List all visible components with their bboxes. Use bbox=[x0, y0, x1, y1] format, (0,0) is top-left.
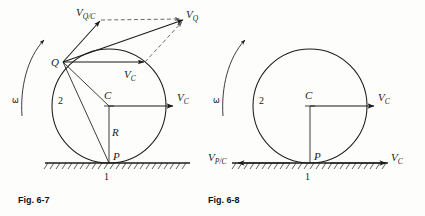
ground-hatching-fig1 bbox=[44, 163, 186, 169]
label-body-2-fig2: 2 bbox=[259, 95, 264, 106]
omega-arc-fig1 bbox=[22, 40, 44, 116]
omega-arc-fig2 bbox=[223, 40, 245, 116]
label-point-c-fig1: C bbox=[104, 89, 112, 101]
dashed-parallel-side-fig1 bbox=[145, 22, 182, 62]
label-point-p-fig1: P bbox=[112, 150, 120, 162]
label-v-q-fig1: VQ bbox=[186, 8, 199, 23]
label-ground-1-fig1: 1 bbox=[104, 171, 109, 182]
label-body-2-fig1: 2 bbox=[58, 95, 63, 106]
line-QC-fig1 bbox=[63, 62, 109, 106]
label-v-c-at-center-fig2: VC bbox=[378, 91, 391, 106]
label-omega-fig1: ω bbox=[12, 96, 19, 105]
label-ground-1-fig2: 1 bbox=[305, 171, 310, 182]
caption-fig-6-8: Fig. 6-8 bbox=[208, 195, 240, 205]
dashed-parallel-top-fig1 bbox=[101, 19, 180, 20]
figure-page: VQ/C VQ VC VC Q C P R 2 1 ω Fig. 6-7 bbox=[0, 0, 425, 216]
label-v-c-at-center-fig1: VC bbox=[177, 91, 190, 106]
figure-6-7: VQ/C VQ VC VC Q C P R 2 1 ω Fig. 6-7 bbox=[12, 6, 199, 205]
diagram-canvas: VQ/C VQ VC VC Q C P R 2 1 ω Fig. 6-7 bbox=[0, 0, 425, 216]
label-v-c-on-ground-fig2: VC bbox=[391, 151, 404, 166]
figure-6-8: VC VP/C VC C P 2 1 ω Fig. 6-8 bbox=[208, 40, 404, 205]
label-point-p-fig2: P bbox=[313, 150, 321, 162]
label-v-p-over-c-fig2: VP/C bbox=[208, 151, 227, 166]
label-radius-r-fig1: R bbox=[111, 126, 119, 138]
ground-hatching-fig2 bbox=[232, 163, 386, 169]
label-v-c-at-q-fig1: VC bbox=[124, 68, 137, 83]
label-omega-fig2: ω bbox=[213, 96, 220, 105]
label-point-q-fig1: Q bbox=[51, 56, 59, 68]
label-v-q-over-c-fig1: VQ/C bbox=[76, 6, 96, 21]
label-point-c-fig2: C bbox=[305, 89, 313, 101]
caption-fig-6-7: Fig. 6-7 bbox=[18, 195, 50, 205]
